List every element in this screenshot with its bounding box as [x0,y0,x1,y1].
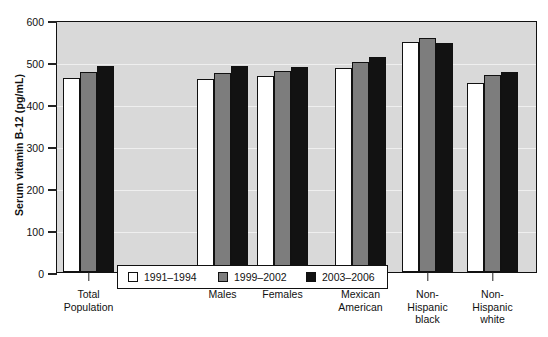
y-axis-tick: 400 [18,100,57,112]
x-axis-category-label: Non-Hispanicwhite [472,288,512,326]
gridline [57,64,536,65]
y-axis-tick: 200 [18,184,57,196]
y-axis-tick: 600 [18,16,57,28]
bar [484,75,501,272]
y-axis-tick-mark [48,21,57,22]
bar [402,42,419,272]
x-axis-category-label: Males [208,288,236,301]
y-axis-tick-label: 400 [18,100,44,112]
legend-item-label: 2003–2006 [322,271,375,283]
bar [335,68,352,272]
x-axis-category-label: Non-Hispanicblack [407,288,447,326]
plot-area: 0100200300400500600 TotalPopulationMales… [56,21,537,273]
white-square-icon [128,272,138,282]
gray-square-icon [218,272,228,282]
bar [419,38,436,272]
y-axis-tick: 100 [18,226,57,238]
bar [369,57,386,272]
bar [436,43,453,272]
y-axis-tick-mark [48,63,57,64]
x-axis-category-label-line: Population [64,301,114,314]
x-axis-category-label-line: white [472,313,512,326]
x-axis-category-label: TotalPopulation [64,288,114,313]
x-axis-category-label-line: black [407,313,447,326]
y-axis-tick-mark [48,189,57,190]
x-axis-category-label-line: Non- [472,288,512,301]
x-axis-category-label-line: Non- [407,288,447,301]
bar [274,71,291,272]
bar [197,79,214,272]
x-axis-tick-mark [492,272,493,281]
x-axis-category-label-line: Females [262,288,302,301]
y-axis-tick-mark [48,231,57,232]
black-square-icon [306,272,316,282]
x-axis-category-label-line: Males [208,288,236,301]
x-axis-tick-mark [427,272,428,281]
bar [352,62,369,272]
bar [501,72,518,272]
y-axis-tick-mark [48,273,57,274]
y-axis-tick-label: 500 [18,58,44,70]
x-axis-category-label-line: Hispanic [472,301,512,314]
x-axis-category-label: MexicanAmerican [338,288,382,313]
x-axis-category-label: Females [262,288,302,301]
x-axis-category-label-line: Mexican [338,288,382,301]
y-axis-tick: 0 [18,268,57,280]
legend: 1991–19941999–20022003–2006 [117,265,388,289]
bar [80,72,97,272]
x-axis-category-label-line: American [338,301,382,314]
y-axis-tick-label: 0 [18,268,44,280]
y-axis-tick-label: 600 [18,16,44,28]
y-axis-tick: 300 [18,142,57,154]
x-axis-category-label-line: Total [64,288,114,301]
bar [214,73,231,272]
bar [467,83,484,272]
bar [291,67,308,272]
y-axis-tick-label: 100 [18,226,44,238]
bar [63,78,80,272]
y-axis-tick-label: 300 [18,142,44,154]
bar [231,66,248,272]
bar-chart-figure: Serum vitamin B-12 (pg/mL) 0100200300400… [0,0,548,337]
legend-item: 2003–2006 [306,271,375,283]
bar [257,76,274,272]
legend-item: 1999–2002 [218,271,287,283]
legend-item-label: 1991–1994 [144,271,197,283]
legend-item-label: 1999–2002 [234,271,287,283]
bar [97,66,114,272]
x-axis-tick-mark [88,272,89,281]
y-axis-tick-mark [48,147,57,148]
y-axis-tick-label: 200 [18,184,44,196]
y-axis-tick-mark [48,105,57,106]
y-axis-tick: 500 [18,58,57,70]
legend-item: 1991–1994 [128,271,197,283]
x-axis-category-label-line: Hispanic [407,301,447,314]
